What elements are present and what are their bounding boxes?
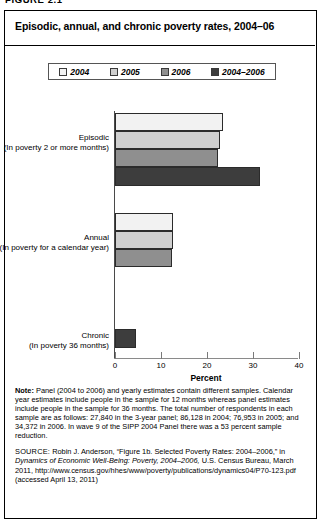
legend-swatch-2006 <box>161 68 169 76</box>
chart-note: Note: Panel (2004 to 2006) and yearly es… <box>15 386 307 441</box>
legend-swatch-2005 <box>110 68 118 76</box>
category-label-name: Chronic <box>0 331 109 341</box>
x-tick-mark <box>207 352 208 359</box>
figure-box: Episodic, annual, and chronic poverty ra… <box>4 10 317 519</box>
legend-label: 2005 <box>121 67 140 77</box>
bar <box>115 249 172 267</box>
bar <box>115 167 260 186</box>
bar <box>115 329 136 348</box>
source-label: SOURCE: <box>15 447 50 456</box>
x-tick-mark <box>299 352 300 359</box>
legend-item: 2004–2006 <box>211 67 265 77</box>
legend-swatch-2004 <box>59 68 67 76</box>
x-tick-label: 30 <box>243 361 263 370</box>
legend-item: 2005 <box>110 67 140 77</box>
category-label-sub: (In poverty 36 months) <box>0 341 109 351</box>
legend-label: 2004 <box>70 67 89 77</box>
category-label: Chronic(In poverty 36 months) <box>0 331 109 351</box>
legend-item: 2006 <box>161 67 191 77</box>
category-label-name: Episodic <box>0 133 109 143</box>
x-tick-label: 0 <box>105 361 125 370</box>
page-title: Episodic, annual, and chronic poverty ra… <box>15 20 305 32</box>
chart-source: SOURCE: Robin J. Anderson, “Figure 1b. S… <box>15 447 307 485</box>
x-tick-mark <box>253 352 254 359</box>
x-tick-mark <box>115 352 116 359</box>
note-label: Note: <box>15 386 34 395</box>
source-text-italic: Dynamics of Economic Well-Being: Poverty… <box>15 456 200 465</box>
bar <box>115 231 173 249</box>
x-tick-label: 10 <box>151 361 171 370</box>
category-label: Annual(In poverty for a calendar year) <box>0 233 109 253</box>
note-text: Panel (2004 to 2006) and yearly estimate… <box>15 386 299 440</box>
chart-plot-area: 010203040 Percent Episodic(In poverty 2 … <box>5 91 315 381</box>
legend-label: 2004–2006 <box>222 67 265 77</box>
x-tick-label: 40 <box>289 361 309 370</box>
bar <box>115 113 223 131</box>
bar <box>115 149 218 167</box>
x-axis-line <box>114 358 298 359</box>
category-label: Episodic(In poverty 2 or more months) <box>0 133 109 153</box>
legend-swatch-2004-2006 <box>211 68 219 76</box>
x-tick-label: 20 <box>197 361 217 370</box>
title-divider <box>5 45 315 46</box>
x-tick-mark <box>161 352 162 359</box>
category-label-sub: (In poverty for a calendar year) <box>0 243 109 253</box>
bar <box>115 213 173 231</box>
legend-item: 2004 <box>59 67 89 77</box>
source-text-1: Robin J. Anderson, “Figure 1b. Selected … <box>52 447 285 456</box>
chart-legend: 2004 2005 2006 2004–2006 <box>48 63 276 80</box>
category-label-sub: (In poverty 2 or more months) <box>0 143 109 153</box>
legend-label: 2006 <box>172 67 191 77</box>
category-label-name: Annual <box>0 233 109 243</box>
x-axis-title: Percent <box>114 373 298 383</box>
bar <box>115 131 220 149</box>
figure-number: FIGURE 2.1 <box>5 0 63 5</box>
